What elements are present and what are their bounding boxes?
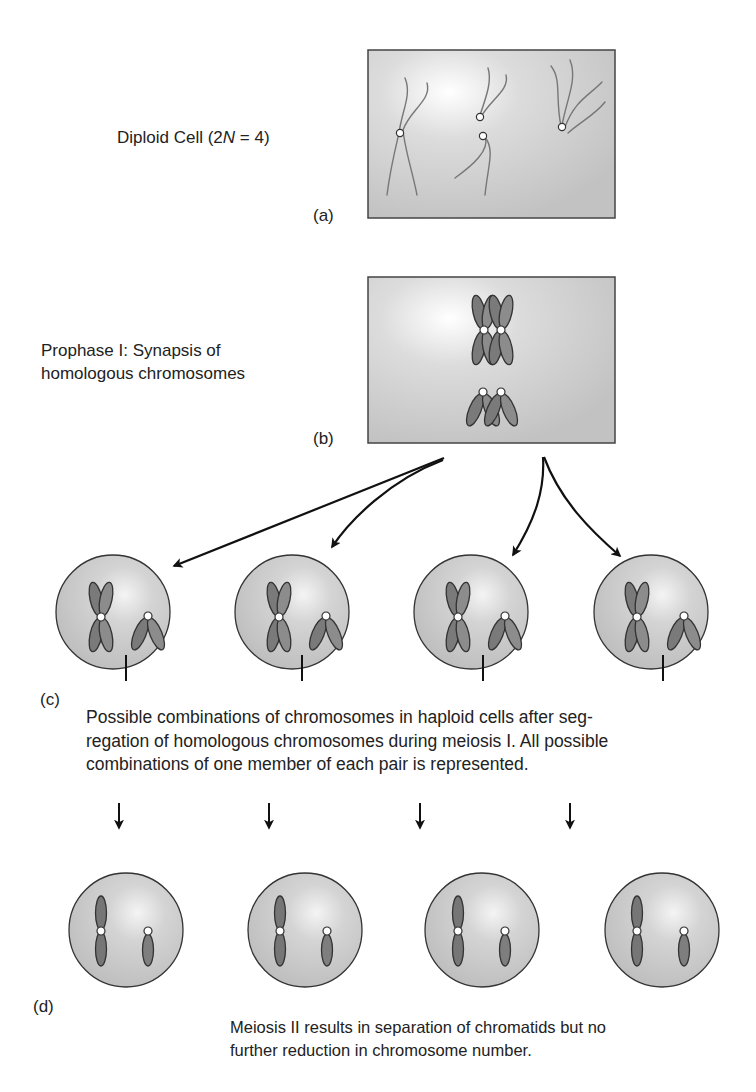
- cell-d-1: [69, 873, 183, 987]
- panel-d-tag: (d): [33, 995, 54, 1018]
- cell-c-1: [56, 555, 170, 669]
- panel-c-tag: (c): [40, 688, 60, 711]
- row-c-haploid-cells: [56, 555, 708, 669]
- cell-d-4: [605, 873, 719, 987]
- prophase-label-line2: homologous chromosomes: [41, 362, 245, 385]
- meiosis-diagram: [0, 0, 756, 1092]
- cell-c-2: [235, 555, 349, 669]
- panel-b-prophase-synapsis: [368, 277, 615, 443]
- panel-c-caption-line3: combinations of one member of each pair …: [86, 753, 529, 776]
- diploid-cell-label: Diploid Cell (2N = 4): [117, 126, 270, 149]
- panel-c-caption-line1: Possible combinations of chromosomes in …: [86, 706, 593, 729]
- prophase-label-line1: Prophase I: Synapsis of: [41, 339, 221, 362]
- panel-c-caption-line2: regation of homologous chromosomes durin…: [86, 730, 608, 753]
- panel-a-tag: (a): [313, 204, 334, 227]
- row-d-meiosis-ii-cells: [69, 873, 719, 987]
- cell-c-4: [594, 555, 708, 669]
- segregation-arrows: [174, 457, 620, 566]
- panel-d-caption-line2: further reduction in chromosome number.: [230, 1039, 532, 1062]
- panel-b-tag: (b): [313, 427, 334, 450]
- meiosis-ii-arrows: [119, 803, 570, 828]
- cell-c-3: [414, 555, 528, 669]
- label-prefix: Diploid Cell (2: [117, 128, 223, 147]
- panel-a-diploid-cell: [368, 50, 615, 218]
- cell-d-3: [425, 873, 539, 987]
- label-suffix: = 4): [235, 128, 270, 147]
- connector-lines: [126, 655, 663, 681]
- panel-d-caption-line1: Meiosis II results in separation of chro…: [230, 1016, 606, 1039]
- label-italic-n: N: [223, 128, 235, 147]
- cell-d-2: [248, 873, 362, 987]
